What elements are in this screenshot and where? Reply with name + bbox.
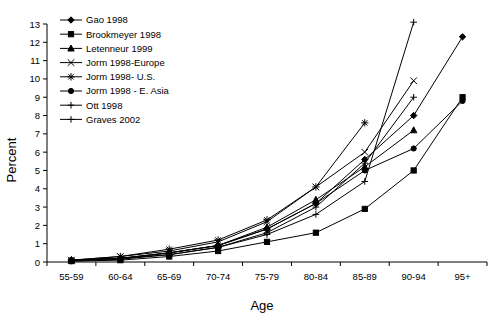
marker-plus [410, 19, 417, 26]
legend-label: Graves 2002 [86, 114, 140, 125]
marker-cross-x [410, 77, 417, 84]
legend-item[interactable]: Ott 1998 [60, 100, 122, 111]
marker-plus [68, 116, 75, 123]
x-tick-label: 85-89 [353, 271, 377, 282]
x-axis-title: Age [250, 298, 273, 313]
legend-item[interactable]: Jorm 1998- U.S. [60, 71, 155, 82]
y-axis-title: Percent [4, 137, 19, 182]
y-tick-label: 10 [29, 73, 40, 84]
x-tick-label: 90-94 [402, 271, 426, 282]
legend-item[interactable]: Jorm 1998-Europe [60, 57, 165, 68]
marker-circle [362, 168, 367, 173]
y-tick-label: 6 [35, 147, 40, 158]
legend-label: Jorm 1998- U.S. [86, 71, 155, 82]
legend-label: Brookmeyer 1998 [86, 29, 161, 40]
y-tick-label: 1 [35, 238, 40, 249]
x-tick-label: 70-74 [206, 271, 230, 282]
marker-plus [361, 178, 368, 185]
y-tick-label: 7 [35, 128, 40, 139]
prevalence-line-chart: 012345678910111213 55-5960-6465-6970-747… [0, 0, 500, 322]
y-tick-label: 2 [35, 220, 40, 231]
marker-square [411, 168, 416, 173]
legend-item[interactable]: Graves 2002 [60, 114, 140, 125]
marker-diamond [68, 17, 74, 23]
x-tick-label: 80-84 [304, 271, 328, 282]
marker-asterisk [67, 73, 74, 80]
marker-cross-x [361, 149, 368, 156]
y-tick-label: 0 [35, 257, 40, 268]
marker-square [68, 32, 73, 37]
marker-circle [411, 146, 416, 151]
y-tick-label: 4 [35, 183, 40, 194]
legend-label: Gao 1998 [86, 14, 128, 25]
legend-label: Ott 1998 [86, 100, 122, 111]
y-axis: 012345678910111213 [29, 19, 47, 268]
legend-item[interactable]: Gao 1998 [60, 14, 128, 25]
y-tick-label: 8 [35, 110, 40, 121]
marker-asterisk [263, 216, 270, 223]
x-tick-label: 75-79 [255, 271, 279, 282]
chart-legend: Gao 1998Brookmeyer 1998Letenneur 1999Jor… [60, 14, 170, 124]
marker-asterisk [312, 183, 319, 190]
y-tick-label: 5 [35, 165, 40, 176]
x-tick-label: 55-59 [59, 271, 83, 282]
legend-item[interactable]: Jorm 1998 - E. Asia [60, 85, 170, 96]
x-axis: 55-5960-6465-6970-7475-7980-8485-8990-94… [47, 262, 487, 282]
y-tick-label: 9 [35, 92, 40, 103]
x-tick-label: 65-69 [157, 271, 181, 282]
marker-circle [68, 88, 73, 93]
x-tick-label: 95+ [454, 271, 471, 282]
marker-triangle [410, 127, 416, 133]
legend-item[interactable]: Brookmeyer 1998 [60, 29, 161, 40]
y-tick-label: 3 [35, 202, 40, 213]
legend-label: Jorm 1998-Europe [86, 57, 165, 68]
y-tick-label: 11 [30, 55, 40, 66]
series-2 [68, 127, 417, 263]
y-tick-label: 13 [29, 19, 40, 30]
legend-item[interactable]: Letenneur 1999 [60, 43, 153, 54]
marker-circle [460, 98, 465, 103]
x-tick-label: 60-64 [108, 271, 132, 282]
marker-square [362, 206, 367, 211]
chart-canvas: 012345678910111213 55-5960-6465-6970-747… [0, 0, 500, 322]
legend-label: Jorm 1998 - E. Asia [86, 85, 170, 96]
marker-diamond [459, 34, 465, 40]
marker-plus [313, 211, 320, 218]
series-7 [68, 19, 417, 265]
marker-square [264, 239, 269, 244]
series-4 [68, 119, 369, 264]
marker-square [313, 230, 318, 235]
y-tick-label: 12 [29, 37, 40, 48]
marker-asterisk [361, 119, 368, 126]
legend-label: Letenneur 1999 [86, 43, 153, 54]
marker-plus [68, 102, 75, 109]
series-layer [68, 19, 466, 265]
